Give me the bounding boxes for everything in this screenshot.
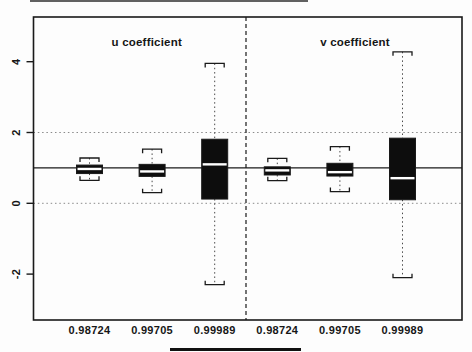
y-tick-label: 0 xyxy=(10,200,22,206)
box-plot-0.99705-u xyxy=(139,149,165,193)
box-iqr xyxy=(327,163,353,176)
box-plot-0.98724-v xyxy=(264,158,290,180)
box-plot-0.99989-v xyxy=(390,52,416,278)
x-category-label: 0.99705 xyxy=(131,324,173,336)
x-category-label: 0.98724 xyxy=(69,324,111,336)
boxplot-chart: 420-2u coefficient0.987240.997050.99989v… xyxy=(0,0,472,352)
box-iqr xyxy=(390,138,416,200)
whisker-cap-upper xyxy=(143,149,162,153)
x-category-label: 0.99989 xyxy=(382,324,424,336)
panel-title-v: v coefficient xyxy=(320,36,390,48)
whisker-cap-upper xyxy=(330,147,349,151)
x-category-label: 0.99705 xyxy=(319,324,361,336)
box-plot-0.99705-v xyxy=(327,147,353,192)
figure: 420-2u coefficient0.987240.997050.99989v… xyxy=(0,0,472,352)
whisker-cap-upper xyxy=(80,158,99,162)
y-tick-label: 4 xyxy=(10,58,22,65)
whisker-cap-upper xyxy=(205,63,224,67)
whisker-cap-upper xyxy=(393,52,412,56)
y-tick-label: 2 xyxy=(10,129,22,135)
box-iqr xyxy=(202,139,228,199)
box-plot-0.99989-u xyxy=(202,63,228,284)
x-category-label: 0.99989 xyxy=(194,324,236,336)
y-tick-label: -2 xyxy=(10,269,22,279)
panel-title-u: u coefficient xyxy=(112,36,182,48)
box-plot-0.98724-u xyxy=(77,158,103,180)
x-category-label: 0.98724 xyxy=(256,324,298,336)
whisker-cap-lower xyxy=(268,177,287,181)
whisker-cap-upper xyxy=(268,158,287,162)
